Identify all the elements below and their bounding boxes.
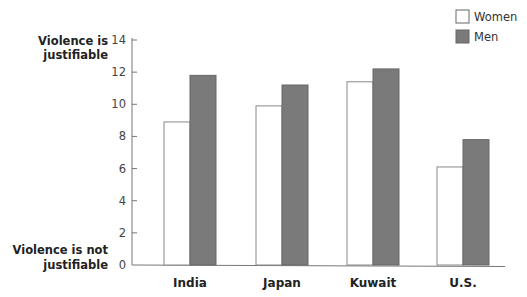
- annotation-bottom-line1: Violence is not: [13, 243, 109, 257]
- x-tick-label: India: [173, 276, 207, 290]
- y-tick-label: 14: [111, 33, 126, 47]
- bar-men-us: [463, 140, 489, 265]
- bar-women-japan: [256, 106, 282, 265]
- y-tick-label: 0: [119, 258, 126, 272]
- bar-men-india: [190, 75, 216, 265]
- bar-chart: Violence is justifiable Violence is not …: [0, 0, 527, 297]
- bar-women-kuwait: [347, 82, 373, 265]
- y-tick-label: 2: [119, 226, 126, 240]
- bar-women-us: [437, 167, 463, 265]
- annotation-bottom-line2: justifiable: [42, 258, 108, 272]
- legend-label-women: Women: [474, 10, 517, 24]
- annotation-top-line2: justifiable: [42, 48, 108, 62]
- y-tick-label: 10: [111, 97, 126, 111]
- x-tick-label: Kuwait: [350, 276, 397, 290]
- x-tick-label: Japan: [262, 276, 301, 290]
- annotation-top-line1: Violence is: [38, 34, 108, 48]
- category-labels: IndiaJapanKuwaitU.S.: [173, 276, 477, 290]
- bar-men-japan: [282, 85, 308, 265]
- bars: [164, 69, 489, 265]
- legend-swatch-men: [456, 30, 469, 43]
- y-tick-label: 4: [119, 194, 126, 208]
- y-axis-annotations: Violence is justifiable Violence is not …: [13, 34, 109, 272]
- y-tick-label: 12: [111, 65, 126, 79]
- legend: WomenMen: [456, 10, 517, 44]
- y-tick-label: 6: [119, 162, 126, 176]
- legend-label-men: Men: [474, 30, 498, 44]
- x-tick-label: U.S.: [449, 276, 477, 290]
- bar-women-india: [164, 122, 190, 265]
- bar-men-kuwait: [373, 69, 399, 265]
- y-tick-label: 8: [119, 129, 126, 143]
- legend-swatch-women: [456, 10, 469, 23]
